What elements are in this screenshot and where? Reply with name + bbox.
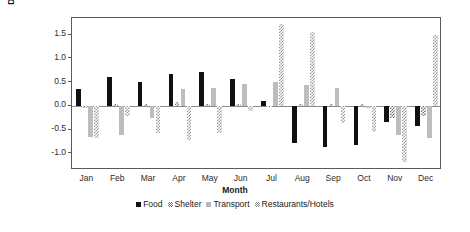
bar-restaurants-sep	[341, 106, 346, 124]
bar-restaurants-jan	[94, 106, 99, 138]
bar-transport-apr	[181, 89, 186, 106]
bar-restaurants-oct	[372, 106, 377, 133]
bar-food-oct	[354, 106, 359, 145]
bar-restaurants-mar	[156, 106, 161, 134]
legend-label-transport: Transport	[213, 199, 249, 209]
bar-shelter-jun	[236, 104, 241, 106]
y-tick-label: 0.5	[30, 77, 66, 86]
bar-shelter-mar	[144, 104, 149, 105]
bar-shelter-sep	[329, 104, 334, 106]
y-tick-label: 0.0	[30, 100, 66, 109]
bar-shelter-nov	[390, 106, 395, 118]
bar-shelter-dec	[421, 106, 426, 116]
bar-shelter-aug	[298, 104, 303, 105]
bar-food-dec	[415, 106, 420, 126]
bar-shelter-jan	[82, 106, 87, 108]
bar-transport-nov	[396, 106, 401, 135]
legend-item-transport: Transport	[206, 199, 249, 209]
y-axis-title-wrap: Deviation from mean (%)	[4, 16, 16, 166]
legend-item-shelter: Shelter	[168, 199, 202, 209]
legend-label-food: Food	[143, 199, 162, 209]
x-tick-label: Dec	[406, 173, 446, 183]
legend-item-restaurants: Restaurants/Hotels	[255, 199, 334, 209]
plot-area	[71, 17, 441, 169]
legend-swatch-restaurants-icon	[255, 202, 260, 207]
bar-transport-jul	[273, 82, 278, 106]
bar-shelter-may	[205, 104, 210, 106]
bar-food-mar	[138, 82, 143, 106]
legend-item-food: Food	[136, 199, 162, 209]
bar-transport-sep	[335, 88, 340, 106]
bar-shelter-jul	[267, 106, 272, 107]
bar-transport-feb	[119, 106, 124, 135]
bar-transport-dec	[427, 106, 432, 138]
bar-restaurants-may	[217, 106, 222, 134]
y-tick-label: 1.0	[30, 53, 66, 62]
bar-restaurants-jul	[279, 24, 284, 106]
bars-layer	[72, 18, 440, 168]
bar-restaurants-jun	[248, 106, 253, 111]
y-axis-title: Deviation from mean (%)	[6, 0, 16, 30]
bar-transport-oct	[366, 106, 371, 108]
bar-food-may	[199, 72, 204, 106]
bar-shelter-apr	[175, 102, 180, 106]
bar-restaurants-apr	[187, 106, 192, 140]
bar-shelter-feb	[113, 104, 118, 106]
bar-transport-may	[211, 88, 216, 106]
bar-food-aug	[292, 106, 297, 143]
chart-legend: Food Shelter Transport Restaurants/Hotel…	[0, 199, 470, 209]
y-tick-label: -0.5	[30, 124, 66, 133]
bar-food-jul	[261, 101, 266, 106]
bar-food-jan	[76, 89, 81, 106]
x-axis-title: Month	[0, 185, 470, 195]
bar-transport-jun	[242, 84, 247, 106]
bar-transport-mar	[150, 106, 155, 118]
bar-shelter-oct	[360, 104, 365, 106]
bar-restaurants-nov	[402, 106, 407, 162]
bar-food-nov	[384, 106, 389, 122]
bar-food-jun	[230, 79, 235, 106]
legend-label-restaurants: Restaurants/Hotels	[262, 199, 334, 209]
legend-label-shelter: Shelter	[175, 199, 202, 209]
chart-figure: Deviation from mean (%) 1.51.00.50.0-0.5…	[0, 0, 470, 232]
legend-swatch-shelter-icon	[168, 202, 173, 207]
bar-restaurants-feb	[125, 106, 130, 116]
bar-restaurants-dec	[433, 35, 438, 106]
y-tick-label: 1.5	[30, 29, 66, 38]
legend-swatch-food-icon	[136, 202, 141, 207]
bar-food-sep	[323, 106, 328, 147]
bar-food-apr	[169, 74, 174, 106]
bar-transport-jan	[88, 106, 93, 137]
bar-restaurants-aug	[310, 32, 315, 106]
legend-swatch-transport-icon	[206, 202, 211, 207]
bar-food-feb	[107, 77, 112, 106]
bar-transport-aug	[304, 85, 309, 105]
y-tick-label: -1.0	[30, 148, 66, 157]
